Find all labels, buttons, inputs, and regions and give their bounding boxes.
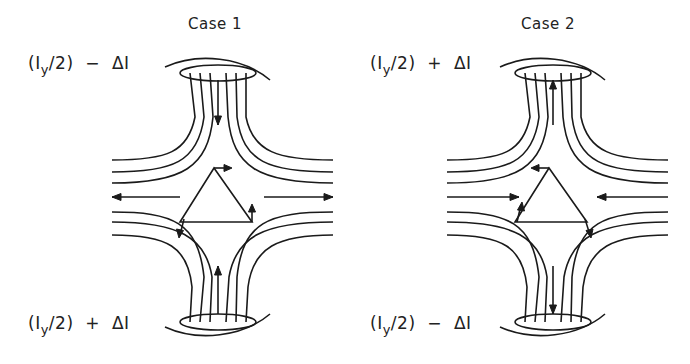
arrow-left-icon xyxy=(597,194,606,201)
arrow-down-icon xyxy=(550,305,557,314)
case1-panel xyxy=(112,58,333,335)
arrow-up-icon xyxy=(249,204,256,212)
arrow-up-icon xyxy=(215,266,222,275)
arrow-down-icon xyxy=(215,116,222,125)
arrow-left-icon xyxy=(531,165,539,172)
diagram-drawing xyxy=(0,0,690,364)
arrow-right-icon xyxy=(324,194,333,201)
arrow-up-icon xyxy=(518,202,525,211)
arrow-left-icon xyxy=(112,194,121,201)
case2-panel xyxy=(447,58,668,335)
arrow-right-icon xyxy=(224,165,232,172)
arrow-right-icon xyxy=(510,194,519,201)
current-flow-diagram: Case 1 Case 2 (Iy/2) − ΔI (Iy/2) + ΔI (I… xyxy=(0,0,690,364)
